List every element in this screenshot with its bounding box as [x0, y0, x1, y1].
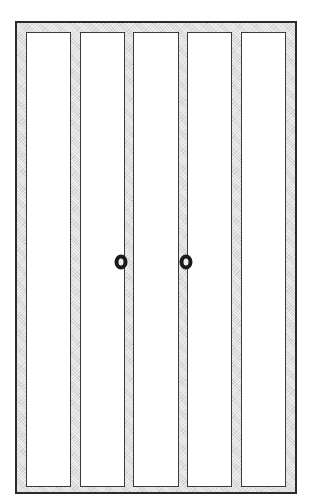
door-panel-4 [187, 32, 232, 487]
door-panel-5 [241, 32, 286, 487]
figure-canvas [0, 0, 314, 503]
door-panel-group [26, 32, 286, 487]
door-panel-1 [26, 32, 71, 487]
door-knob-right-icon[interactable] [180, 255, 193, 270]
door-knob-left-icon[interactable] [115, 255, 128, 270]
door-panel-3 [133, 32, 178, 487]
door-frame [15, 21, 297, 494]
